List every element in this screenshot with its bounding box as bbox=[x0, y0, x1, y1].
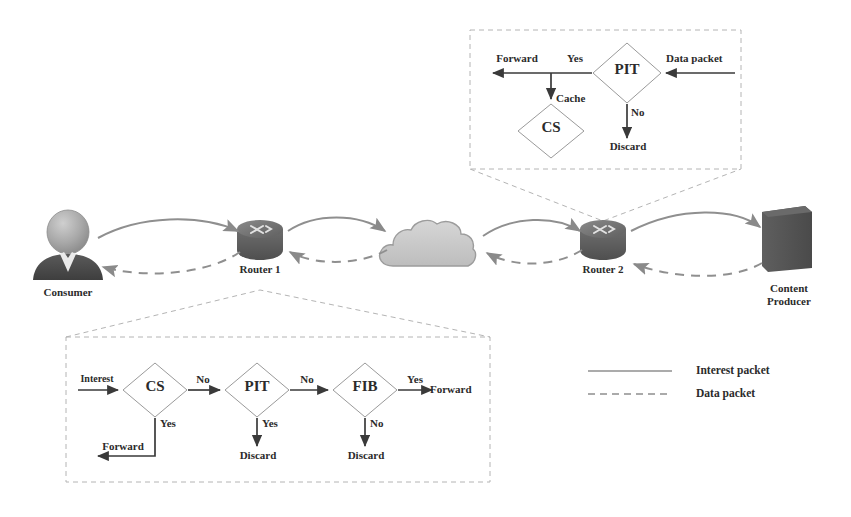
router2-label: Router 2 bbox=[563, 263, 643, 276]
diagram-canvas: Consumer Router 1 Router 2 Content Produ… bbox=[0, 0, 851, 517]
interest-detail-cs-no-label: No bbox=[190, 373, 216, 386]
consumer-label: Consumer bbox=[28, 286, 108, 299]
interest-detail-fib-yes-label: Yes bbox=[400, 373, 430, 386]
interest-detail-pit-discard-terminal: Discard bbox=[229, 449, 287, 462]
interest-detail-fib-label: FIB bbox=[340, 380, 390, 393]
legend-label-data: Data packet bbox=[696, 387, 755, 399]
legend-label-interest: Interest packet bbox=[696, 364, 770, 376]
interest-detail-cs-forward-terminal: Forward bbox=[94, 440, 152, 453]
network-cloud-icon bbox=[380, 220, 476, 266]
interest-detail-fib-forward-terminal: Forward bbox=[430, 383, 488, 396]
data-detail-pit-label: PIT bbox=[601, 63, 653, 76]
interest-detail-cs-label: CS bbox=[131, 380, 179, 393]
data-detail-cache-label: Cache bbox=[556, 92, 600, 105]
interest-detail-fib-no-label: No bbox=[370, 417, 396, 430]
producer-server-icon bbox=[762, 206, 812, 272]
router1-label: Router 1 bbox=[220, 263, 300, 276]
router1-router-icon bbox=[237, 220, 283, 260]
data-detail-forward-terminal: Forward bbox=[489, 52, 545, 65]
consumer-person-icon bbox=[33, 210, 103, 280]
data-detail-entry-label: Data packet bbox=[666, 52, 744, 65]
interest-detail-cs-yes-label: Yes bbox=[160, 417, 190, 430]
interest-detail-pit-yes-label: Yes bbox=[262, 417, 292, 430]
data-detail-pit-yes-label: Yes bbox=[560, 52, 590, 65]
data-detail-pit-no-label: No bbox=[631, 106, 655, 119]
interest-detail-fib-discard-terminal: Discard bbox=[337, 449, 395, 462]
interest-detail-callout-connector bbox=[66, 290, 490, 337]
producer-label: Content Producer bbox=[748, 282, 830, 308]
router2-router-icon bbox=[580, 220, 626, 260]
data-detail-cs-label: CS bbox=[527, 121, 575, 134]
interest-detail-entry-label: Interest bbox=[72, 372, 122, 385]
interest-detail-pit-no-label: No bbox=[294, 373, 320, 386]
interest-detail-pit-label: PIT bbox=[231, 380, 283, 393]
data-detail-discard-terminal: Discard bbox=[600, 140, 656, 153]
